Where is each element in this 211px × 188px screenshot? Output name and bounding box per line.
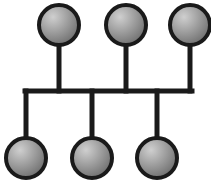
- top-node-2: [106, 5, 146, 45]
- top-node-1: [39, 5, 79, 45]
- bus-topology-diagram: [0, 0, 211, 188]
- connection-lines: [25, 45, 192, 138]
- top-node-3: [170, 5, 210, 45]
- bottom-node-2: [72, 138, 112, 178]
- bottom-node-1: [6, 138, 46, 178]
- bottom-node-3: [137, 138, 177, 178]
